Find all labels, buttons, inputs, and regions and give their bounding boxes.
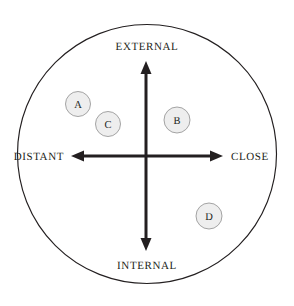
node-label-b: B [173,116,180,127]
axis-label-close: CLOSE [231,151,269,163]
axis-label-distant: DISTANT [14,151,64,163]
node-group-c[interactable]: C [96,112,121,137]
axis-label-internal: INTERNAL [117,260,177,272]
node-label-a: A [74,100,82,111]
quadrant-diagram: EXTERNAL INTERNAL DISTANT CLOSE A C B D [0,0,294,306]
node-group-b[interactable]: B [164,107,190,133]
node-label-c: C [104,120,111,131]
node-group-d[interactable]: D [196,203,222,229]
node-group-a[interactable]: A [66,92,91,117]
axis-label-external: EXTERNAL [116,41,179,53]
node-label-d: D [205,212,213,223]
diagram-canvas: EXTERNAL INTERNAL DISTANT CLOSE A C B D [0,0,294,306]
